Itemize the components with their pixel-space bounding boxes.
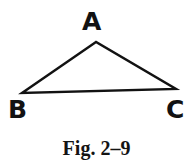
figure-container: A B C Fig. 2–9 xyxy=(0,0,193,165)
vertex-label-c: C xyxy=(166,97,184,122)
triangle-outline xyxy=(22,42,176,93)
figure-caption: Fig. 2–9 xyxy=(0,136,193,160)
vertex-label-a: A xyxy=(82,9,101,34)
vertex-label-b: B xyxy=(8,97,27,122)
